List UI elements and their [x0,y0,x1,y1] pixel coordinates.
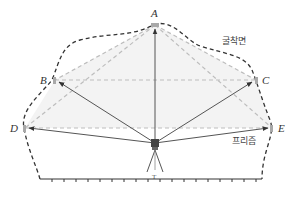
total-station-icon [147,139,163,172]
ground-baseline [40,179,262,182]
point-label-c: C [262,74,270,86]
prism-label: 프리즘 [232,136,256,146]
point-label-d: D [9,122,18,134]
point-label-b: B [40,74,47,86]
excavation-survey-diagram: T A B C D E 굴착면 프리즘 [0,0,292,197]
point-label-e: E [277,122,285,134]
excavation-surface-label: 굴착면 [222,36,246,46]
prism-marker-e [270,125,273,132]
prism-marker-b [53,77,56,84]
prism-marker-a [151,23,159,27]
point-label-a: A [150,7,158,19]
prism-marker-c [255,77,258,84]
prism-marker-d [23,125,26,132]
instrument-label: T [152,173,157,181]
